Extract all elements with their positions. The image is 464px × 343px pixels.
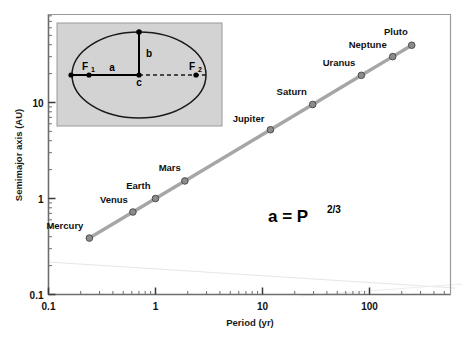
data-point-venus bbox=[130, 209, 137, 216]
semiminor-label: b bbox=[146, 48, 152, 59]
vertex-left-point bbox=[68, 72, 73, 77]
data-point-uranus bbox=[358, 72, 365, 79]
chart-figure: 0.1110100 0.1110 Period (yr) Semimajor a… bbox=[0, 0, 464, 343]
ellipse-inset-panel: F 1 F 2 a b c bbox=[57, 23, 222, 126]
label-mars: Mars bbox=[159, 162, 181, 173]
data-point-mars bbox=[182, 178, 189, 185]
label-saturn: Saturn bbox=[277, 86, 307, 97]
label-uranus: Uranus bbox=[323, 57, 356, 68]
equation-base: a = P bbox=[268, 207, 308, 226]
data-point-jupiter bbox=[267, 126, 274, 133]
focus2-subscript: 2 bbox=[198, 66, 202, 73]
kepler-log-log-plot: 0.1110100 0.1110 Period (yr) Semimajor a… bbox=[0, 0, 464, 343]
focus2-label: F bbox=[189, 61, 195, 72]
y-tick-label: 1 bbox=[38, 194, 44, 205]
focus1-point bbox=[86, 72, 91, 77]
x-tick-label: 10 bbox=[257, 301, 269, 312]
label-pluto: Pluto bbox=[384, 26, 408, 37]
label-mercury: Mercury bbox=[46, 220, 84, 231]
x-tick-label: 100 bbox=[361, 301, 378, 312]
focus1-label: F bbox=[82, 61, 88, 72]
data-point-mercury bbox=[86, 235, 93, 242]
x-tick-label: 1 bbox=[153, 301, 159, 312]
label-jupiter: Jupiter bbox=[233, 113, 265, 124]
y-axis-title: Semimajor axis (AU) bbox=[13, 109, 24, 201]
y-tick-label: 10 bbox=[32, 98, 44, 109]
label-neptune: Neptune bbox=[349, 39, 387, 50]
data-point-neptune bbox=[389, 53, 396, 60]
data-point-pluto bbox=[408, 42, 415, 49]
label-venus: Venus bbox=[100, 194, 128, 205]
y-tick-label: 0.1 bbox=[30, 290, 44, 301]
focus2-point bbox=[193, 72, 198, 77]
data-point-earth bbox=[152, 195, 159, 202]
equation-exponent: 2/3 bbox=[327, 204, 341, 215]
x-axis-title: Period (yr) bbox=[226, 317, 274, 328]
center-label: c bbox=[136, 77, 142, 88]
covertex-top-point bbox=[136, 29, 142, 35]
semimajor-label: a bbox=[109, 62, 115, 73]
x-tick-label: 0.1 bbox=[42, 301, 56, 312]
focus1-subscript: 1 bbox=[91, 66, 95, 73]
data-point-saturn bbox=[309, 101, 316, 108]
label-earth: Earth bbox=[126, 180, 150, 191]
